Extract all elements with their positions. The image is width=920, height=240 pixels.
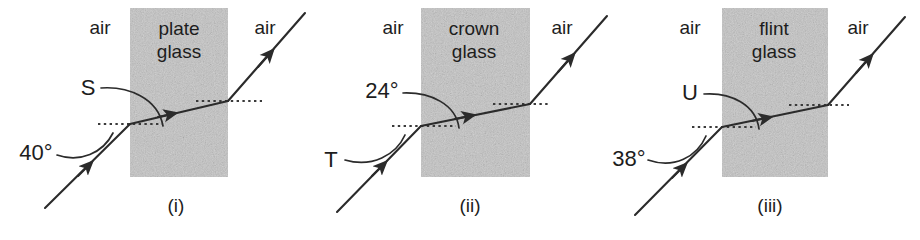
emergent-ray-arrow-1 [258, 50, 273, 67]
panel-caption-1: (i) [168, 195, 185, 216]
incidence-angle-label-2: T [324, 147, 337, 172]
refraction-diagram-svg: air air plate glass S 40° (i) air air cr… [0, 0, 920, 240]
panel-crown-glass: air air crown glass 24° T (ii) [324, 8, 607, 216]
incident-ray-arrow-1 [78, 162, 92, 176]
panel-caption-3: (iii) [757, 195, 782, 216]
air-label-right-2: air [551, 17, 573, 38]
air-label-left-3: air [679, 17, 701, 38]
air-label-right-1: air [254, 17, 276, 38]
air-label-left-2: air [382, 17, 404, 38]
emergent-ray-arrow-3 [856, 55, 872, 73]
refracted-ray-1 [130, 101, 228, 124]
incident-ray-arrow-2 [372, 162, 386, 176]
material-label-line2-3: glass [752, 41, 796, 62]
air-label-left-1: air [89, 17, 111, 38]
panel-flint-glass: air air flint glass U 38° (iii) [612, 8, 905, 216]
angle-leader-incidence-2 [345, 135, 405, 162]
air-label-right-3: air [847, 17, 869, 38]
panel-plate-glass: air air plate glass S 40° (i) [19, 8, 305, 216]
refraction-angle-label-3: U [682, 80, 698, 105]
incidence-angle-label-1: 40° [19, 140, 52, 165]
angle-leader-refraction-2 [403, 93, 459, 128]
material-label-line1-1: plate [158, 18, 199, 39]
material-label-line1-2: crown [449, 18, 500, 39]
material-label-line2-1: glass [157, 41, 201, 62]
refraction-figure: air air plate glass S 40° (i) air air cr… [0, 0, 920, 240]
angle-leader-incidence-3 [648, 136, 706, 163]
refracted-ray-arrow-2 [455, 115, 474, 119]
panel-caption-2: (ii) [459, 195, 480, 216]
refraction-angle-label-1: S [81, 75, 96, 100]
incidence-angle-label-3: 38° [612, 146, 645, 171]
emergent-ray-arrow-2 [558, 54, 574, 72]
refracted-ray-2 [421, 104, 530, 126]
angle-leader-refraction-3 [704, 94, 759, 129]
angle-leader-incidence-1 [57, 133, 113, 158]
incident-ray-arrow-3 [672, 164, 686, 178]
material-label-line1-3: flint [759, 18, 789, 39]
material-label-line2-2: glass [452, 41, 496, 62]
refracted-ray-3 [722, 105, 828, 127]
angle-leader-refraction-1 [101, 88, 163, 126]
refraction-angle-label-2: 24° [365, 78, 398, 103]
